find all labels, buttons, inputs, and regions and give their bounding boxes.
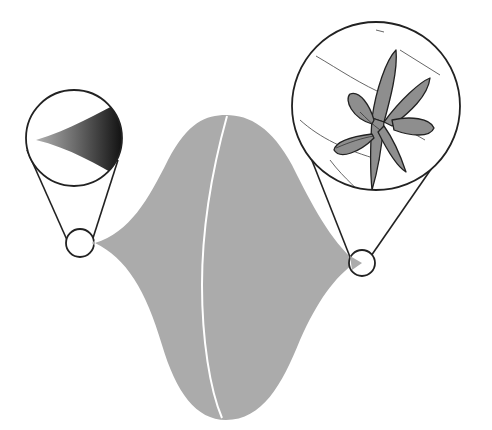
- left-source-circle: [66, 229, 94, 257]
- diagram-canvas: [0, 0, 492, 430]
- left-inset: [26, 90, 124, 257]
